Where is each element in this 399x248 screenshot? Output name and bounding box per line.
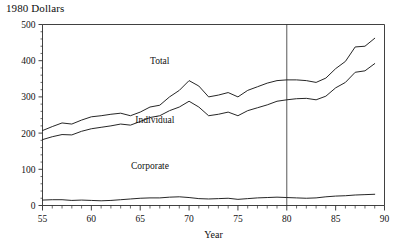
- svg-text:90: 90: [380, 214, 390, 224]
- svg-text:300: 300: [21, 92, 36, 102]
- series-line-total: [43, 38, 375, 130]
- chart-page: 1980 Dollars 010020030040050055606570758…: [0, 0, 399, 248]
- svg-text:500: 500: [21, 20, 36, 30]
- svg-text:100: 100: [21, 165, 36, 175]
- svg-text:200: 200: [21, 129, 36, 139]
- svg-text:80: 80: [282, 214, 292, 224]
- annotation-individual: Individual: [135, 115, 174, 125]
- svg-text:400: 400: [21, 56, 36, 66]
- annotation-total: Total: [150, 56, 170, 66]
- data-series: [43, 38, 375, 201]
- x-axis-label: Year: [204, 229, 223, 240]
- annotation-corporate: Corporate: [131, 161, 169, 171]
- svg-text:0: 0: [31, 201, 36, 211]
- svg-text:70: 70: [184, 214, 194, 224]
- series-line-individual: [43, 64, 375, 140]
- series-line-corporate: [43, 194, 375, 201]
- svg-text:85: 85: [331, 214, 341, 224]
- svg-text:65: 65: [135, 214, 145, 224]
- svg-text:55: 55: [38, 214, 48, 224]
- x-axis-title: Year: [204, 229, 223, 240]
- svg-text:75: 75: [233, 214, 243, 224]
- svg-text:60: 60: [87, 214, 97, 224]
- line-chart: 01002003004005005560657075808590 TotalIn…: [0, 0, 399, 248]
